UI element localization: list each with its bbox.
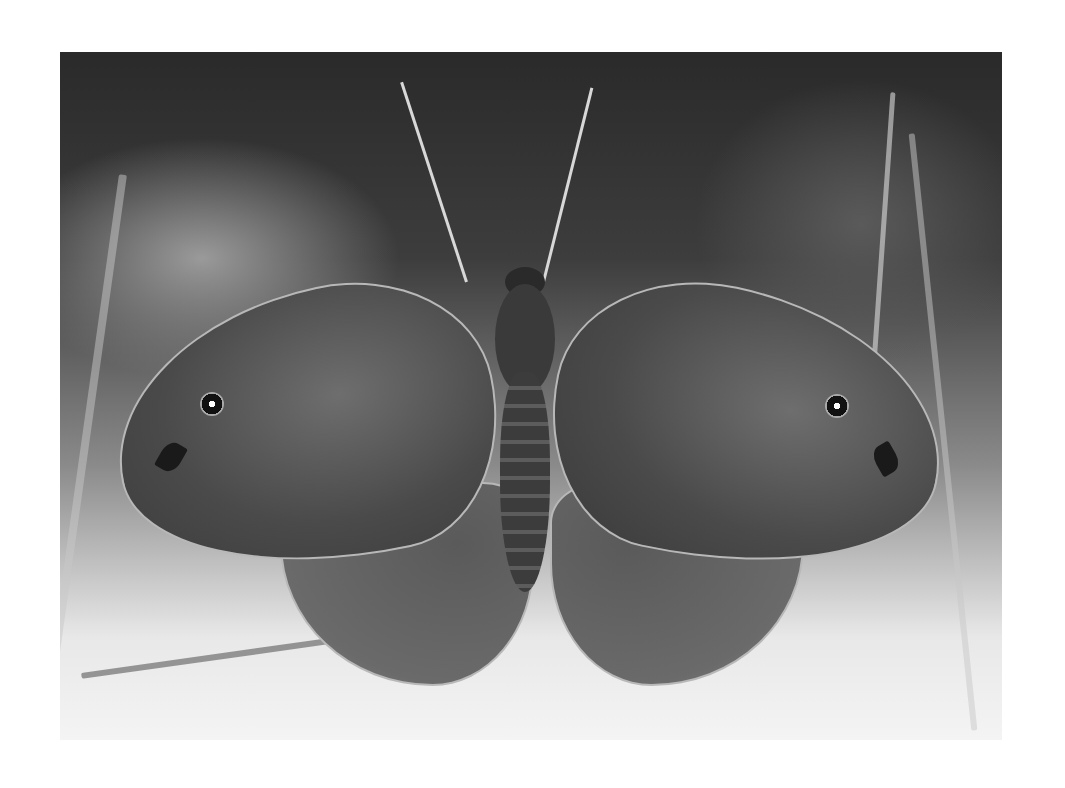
eyespot-right: [825, 394, 849, 418]
grass-blade: [870, 92, 896, 392]
antenna-left: [400, 82, 468, 283]
butterfly-photo: [60, 52, 1002, 740]
eyespot-left: [200, 392, 224, 416]
grass-blade: [60, 174, 127, 730]
butterfly-abdomen: [500, 372, 550, 592]
antenna-right: [542, 88, 593, 283]
